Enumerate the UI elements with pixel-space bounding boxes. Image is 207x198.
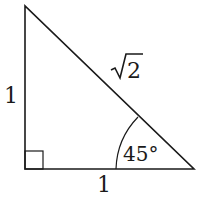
right-angle-marker: [25, 151, 43, 169]
triangle: [25, 6, 194, 169]
angle-label: 45°: [123, 142, 158, 166]
triangle-diagram: 1 1 2 45°: [0, 0, 207, 198]
hypotenuse-radicand: 2: [127, 58, 141, 83]
left-side-label: 1: [4, 83, 18, 108]
hypotenuse-label: 2: [111, 54, 143, 83]
bottom-side-label: 1: [97, 172, 111, 197]
